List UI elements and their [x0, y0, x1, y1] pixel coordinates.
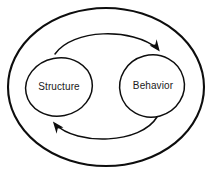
behavior-node-label: Behavior — [133, 80, 174, 91]
structure-behavior-diagram: Structure Behavior — [0, 0, 214, 176]
structure-node-label: Structure — [38, 81, 80, 92]
diagram-canvas: Structure Behavior — [0, 0, 214, 176]
